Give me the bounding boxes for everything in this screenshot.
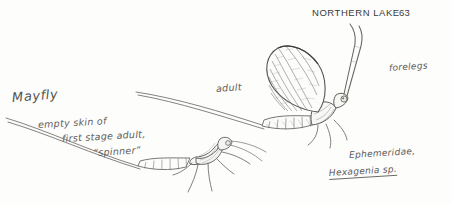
adult-forewing: [267, 46, 325, 112]
adult-compound-eye: [341, 96, 347, 102]
genus-text: Hexagenia: [329, 165, 380, 178]
adult-eye-highlight: [342, 97, 344, 99]
label-adult: adult: [216, 81, 242, 94]
exuvia-antennae: [230, 141, 266, 161]
adult-forelegs: [344, 24, 362, 96]
species-abbrev-text: sp.: [383, 164, 398, 175]
adult-mayfly-drawing: [136, 24, 362, 148]
adult-abdomen: [262, 116, 318, 130]
field-guide-page: NORTHERN LAKE 63: [0, 0, 452, 204]
adult-tail-filaments: [136, 92, 264, 129]
exuvia-eye: [226, 141, 231, 146]
exuvia-abdomen: [138, 158, 190, 170]
